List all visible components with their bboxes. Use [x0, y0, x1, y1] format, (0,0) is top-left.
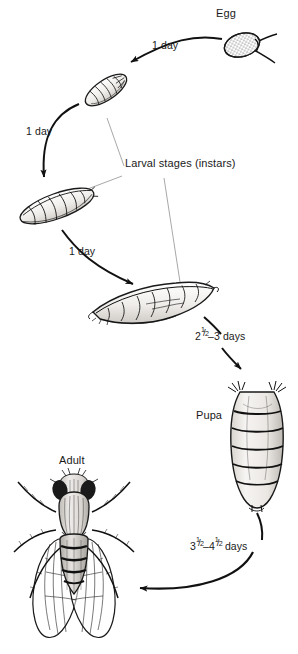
thorax — [59, 492, 89, 540]
third-instar-larva-drawing — [89, 281, 219, 325]
duration-unit: days — [223, 330, 246, 342]
adult-fly-drawing — [14, 468, 134, 641]
fraction-one-half-second: 1/2 — [215, 539, 222, 550]
duration-whole-2: 3 — [214, 330, 220, 342]
duration-second-to-third-instar: 1 day — [69, 246, 95, 257]
duration-egg-to-first-instar: 1 day — [152, 40, 178, 51]
fraction-one-half-first: 1/2 — [196, 539, 203, 550]
pupa-drawing — [228, 381, 286, 512]
duration-third-instar-to-pupa: 21/2–3 days — [195, 329, 245, 342]
label-egg: Egg — [216, 8, 236, 20]
second-instar-larva-drawing — [16, 180, 101, 231]
egg-drawing — [222, 29, 277, 63]
duration-unit: days — [225, 540, 248, 552]
label-adult: Adult — [59, 455, 85, 467]
leader-lines — [85, 118, 180, 282]
duration-first-to-second-instar: 1 day — [26, 126, 52, 137]
label-larval-stages: Larval stages (instars) — [125, 158, 236, 170]
fraction-one-half: 1/2 — [201, 329, 208, 340]
arrow-third-instar-to-pupa — [204, 317, 241, 369]
arrow-first-to-second-instar — [44, 104, 79, 177]
drosophila-life-cycle-figure: Egg 1 day 1 day Larval stages (instars) … — [0, 0, 298, 654]
life-cycle-illustration — [0, 0, 298, 654]
label-pupa: Pupa — [196, 410, 222, 422]
duration-pupa-to-adult: 31/2–41/2 days — [190, 539, 247, 552]
first-instar-larva-drawing — [81, 68, 132, 111]
